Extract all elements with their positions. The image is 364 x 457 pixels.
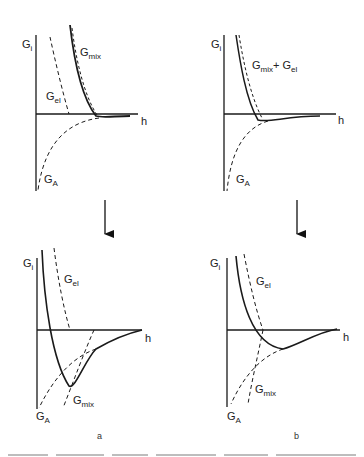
h-axis-label: h (145, 333, 151, 344)
label-sub: i (31, 44, 33, 53)
label-sub: el (73, 279, 79, 288)
y-axis-label: Gi (211, 39, 221, 53)
label-g-a: GA (36, 411, 50, 425)
label-main: G (252, 59, 261, 71)
label-g-a: GA (227, 411, 241, 425)
label-main: G (210, 257, 219, 269)
label-sub: i (220, 44, 222, 53)
panel-letter-b: b (294, 431, 299, 441)
label-sub: A (45, 416, 50, 425)
label-main: G (23, 257, 32, 269)
label-sub: mix (264, 389, 276, 398)
text-fragment (8, 454, 48, 456)
label-g-el: Gel (256, 276, 271, 290)
label-sub: el (265, 281, 271, 290)
label-sub: i (32, 263, 34, 272)
curve-total (236, 256, 337, 349)
h-axis-label: h (338, 115, 344, 126)
label-main: G (44, 173, 53, 185)
label-sub: A (53, 179, 58, 188)
label-main: G (64, 273, 73, 285)
curve-g-mix-el (236, 35, 320, 121)
label-sub: mix (82, 400, 94, 409)
label-g-el: Gel (64, 274, 79, 288)
panel-bottom-left (37, 248, 142, 409)
label-g-mix: Gmix (73, 395, 94, 409)
y-axis-label: Gi (22, 39, 32, 53)
label-g-el: Gel (46, 91, 61, 105)
panel-bottom-right (227, 254, 340, 407)
label-main: G (80, 46, 89, 58)
text-fragment (156, 454, 216, 456)
y-axis-label: Gi (210, 258, 220, 272)
h-axis-label: h (343, 332, 349, 343)
label-plus: + G (273, 59, 291, 71)
label-g-a: GA (44, 174, 58, 188)
label-sub2: el (291, 65, 297, 74)
panel-letter-a: a (97, 431, 102, 441)
label-g-mix: Gmix (255, 384, 276, 398)
label-sub: mix (89, 52, 101, 61)
figure-canvas (0, 0, 364, 457)
label-sub: A (245, 179, 250, 188)
label-sub: el (55, 96, 61, 105)
label-main: G (36, 410, 45, 422)
curve-g-mix (70, 25, 130, 117)
label-main: G (227, 410, 236, 422)
y-axis-label: Gi (23, 258, 33, 272)
text-fragment (224, 454, 268, 456)
label-main: G (256, 275, 265, 287)
label-g-mix: Gmix (80, 47, 101, 61)
curve-g-el (54, 248, 70, 330)
label-main: G (211, 38, 220, 50)
cropped-caption-line (0, 449, 364, 457)
text-fragment (112, 454, 148, 456)
label-sub: A (236, 416, 241, 425)
label-g-a: GA (236, 174, 250, 188)
label-g-mix-plus-g-el: Gmix+ Gel (252, 60, 297, 74)
curve-g-el (244, 254, 263, 330)
label-sub: i (219, 263, 221, 272)
label-main: G (236, 173, 245, 185)
label-main: G (73, 394, 82, 406)
label-sub: mix (261, 65, 273, 74)
label-main: G (255, 383, 264, 395)
curve-g-mix-dashed (72, 28, 97, 115)
h-axis-label: h (141, 116, 147, 127)
label-main: G (22, 38, 31, 50)
text-fragment (56, 454, 104, 456)
label-main: G (46, 90, 55, 102)
text-fragment (276, 454, 356, 456)
